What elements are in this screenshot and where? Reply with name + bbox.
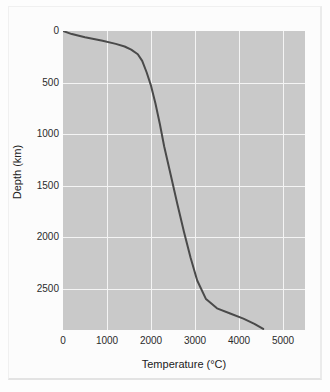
x-tick-label: 5000: [272, 336, 294, 346]
x-tick-label: 2000: [140, 336, 162, 346]
y-axis-tick-labels: 0 500 1000 1500 2000 2500: [0, 0, 59, 392]
y-axis-title: Depth (km): [11, 122, 23, 222]
y-tick-label: 2000: [4, 232, 59, 242]
x-tick-label: 1000: [96, 336, 118, 346]
y-tick-label: 2500: [4, 284, 59, 294]
x-tick-label: 4000: [228, 336, 250, 346]
x-tick-label: 0: [60, 336, 66, 346]
plot-area: [63, 31, 305, 330]
x-axis-tick-labels: 0 1000 2000 3000 4000 5000: [63, 336, 305, 350]
x-axis-title: Temperature (°C): [63, 358, 305, 370]
y-tick-label: 500: [4, 78, 59, 88]
y-tick-label: 0: [4, 26, 59, 36]
x-tick-label: 3000: [184, 336, 206, 346]
figure-root: 0 500 1000 1500 2000 2500 0 1000 2000 30…: [0, 0, 330, 392]
geotherm-curve-svg: [63, 31, 305, 330]
geotherm-curve: [63, 31, 263, 329]
